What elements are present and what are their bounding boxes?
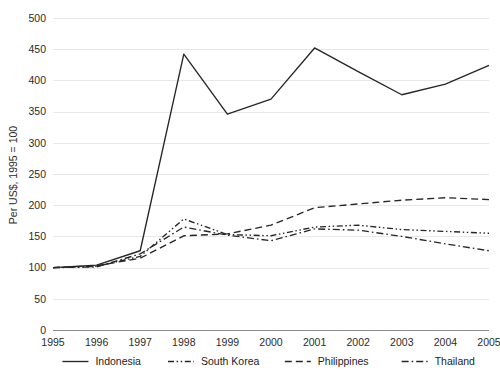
legend-item-philippines[interactable]: Philippines	[285, 355, 369, 367]
line-chart: 050100150200250300350400450500 199519961…	[0, 0, 500, 381]
x-tick-label: 2004	[434, 336, 458, 348]
x-tick-label: 2002	[347, 336, 371, 348]
legend-item-thailand[interactable]: Thailand	[402, 355, 475, 367]
y-tick-label: 200	[28, 199, 46, 211]
x-tick-label: 1999	[216, 336, 240, 348]
legend-label: Indonesia	[95, 355, 141, 367]
x-axis-tick-labels: 1995199619971998199920002001200220032004…	[41, 336, 500, 348]
series-line-south-korea	[53, 219, 489, 268]
y-axis-title: Per US$, 1995 = 100	[7, 126, 19, 225]
x-tick-label: 1998	[172, 336, 196, 348]
x-tick-label: 2003	[390, 336, 414, 348]
legend-item-south-korea[interactable]: South Korea	[168, 355, 260, 367]
x-tick-label: 1996	[85, 336, 109, 348]
legend-item-indonesia[interactable]: Indonesia	[62, 355, 141, 367]
series-line-philippines	[53, 198, 489, 268]
y-tick-label: 300	[28, 137, 46, 149]
x-tick-label: 2005	[477, 336, 500, 348]
y-tick-label: 500	[28, 12, 46, 24]
chart-canvas: 050100150200250300350400450500 199519961…	[0, 0, 500, 381]
y-tick-label: 350	[28, 105, 46, 117]
gridlines	[53, 19, 489, 331]
legend-label: Thailand	[435, 355, 475, 367]
y-tick-label: 0	[40, 324, 46, 336]
x-tick-label: 2001	[303, 336, 327, 348]
legend-label: Philippines	[318, 355, 369, 367]
y-tick-label: 100	[28, 261, 46, 273]
x-tick-label: 1995	[41, 336, 65, 348]
y-tick-label: 400	[28, 74, 46, 86]
x-tick-label: 2000	[259, 336, 283, 348]
chart-legend: IndonesiaSouth KoreaPhilippinesThailand	[62, 355, 475, 367]
legend-label: South Korea	[201, 355, 260, 367]
y-axis-tick-labels: 050100150200250300350400450500	[28, 12, 46, 336]
series-line-thailand	[53, 227, 489, 268]
y-tick-label: 50	[34, 293, 46, 305]
y-tick-label: 250	[28, 168, 46, 180]
y-tick-label: 150	[28, 230, 46, 242]
x-tick-label: 1997	[129, 336, 153, 348]
y-tick-label: 450	[28, 43, 46, 55]
